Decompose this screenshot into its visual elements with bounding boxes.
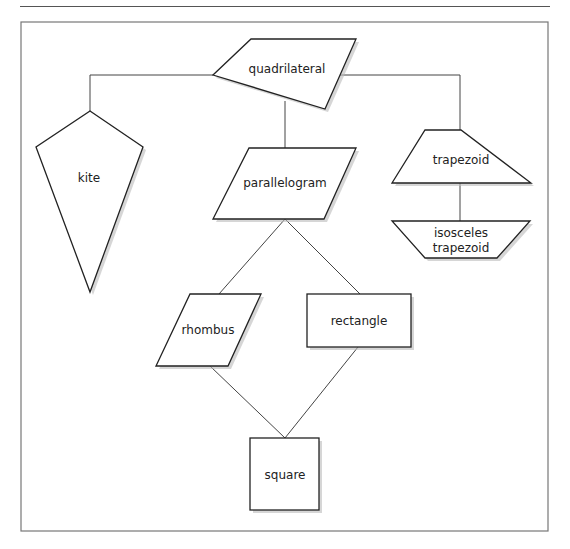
node-square: square [250, 438, 322, 513]
node-kite-label: kite [78, 171, 100, 185]
node-rectangle: rectangle [307, 294, 414, 350]
node-quadrilateral: quadrilateral [213, 39, 359, 112]
node-kite: kite [36, 111, 146, 295]
edge-quadrilateral-kite [90, 75, 213, 111]
connectors [90, 75, 460, 438]
node-trapezoid: trapezoid [392, 130, 534, 186]
edge-parallelogram-rectangle [285, 219, 360, 294]
edge-parallelogram-rhombus [219, 219, 285, 294]
node-isosceles-trapezoid: isosceles trapezoid [392, 221, 533, 261]
node-isosceles-label-line2: trapezoid [433, 241, 490, 255]
node-rectangle-label: rectangle [331, 314, 388, 328]
node-parallelogram-label: parallelogram [243, 176, 327, 190]
node-isosceles-label-line1: isosceles [434, 226, 488, 240]
edge-rectangle-square [285, 347, 358, 438]
edge-rhombus-square [210, 366, 285, 438]
node-parallelogram: parallelogram [213, 148, 359, 222]
node-trapezoid-label: trapezoid [433, 153, 490, 167]
node-quadrilateral-label: quadrilateral [249, 62, 326, 76]
node-square-label: square [265, 468, 306, 482]
edge-quadrilateral-trapezoid [340, 75, 460, 130]
quadrilateral-hierarchy-diagram: quadrilateral kite parallelogram trapezo… [0, 0, 570, 549]
node-rhombus-label: rhombus [182, 323, 235, 337]
node-rhombus: rhombus [156, 294, 264, 369]
